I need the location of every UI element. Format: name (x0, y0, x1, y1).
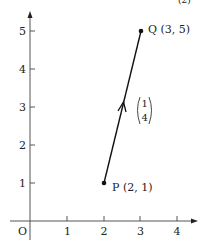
y-tick-label-5: 5 (19, 25, 26, 38)
y-tick-label-3: 3 (19, 101, 26, 114)
x-tick-label-4: 4 (174, 225, 181, 238)
x-tick-label-1: 1 (64, 225, 71, 238)
right-paren-icon (149, 97, 152, 124)
y-tick-label-1: 1 (19, 177, 26, 190)
y-ticks (30, 31, 35, 183)
x-tick-label-3: 3 (137, 225, 144, 238)
y-tick-label-4: 4 (19, 63, 26, 76)
origin-label: O (18, 225, 27, 238)
point-q (139, 29, 144, 34)
point-p-label: P (2, 1) (112, 181, 152, 194)
vector-bottom-component: 4 (142, 112, 148, 123)
vector-diagram: (2) O 1 2 3 4 1 2 3 4 5 P (0, 0, 207, 247)
x-axis-arrow-icon (191, 219, 198, 224)
corner-fragment-label: (2) (178, 0, 191, 5)
y-axis (28, 11, 33, 240)
point-p (102, 181, 107, 186)
y-tick-label-2: 2 (19, 139, 26, 152)
vector-pq (104, 31, 141, 183)
vector-top-component: 1 (142, 98, 148, 109)
x-tick-label-2: 2 (101, 225, 108, 238)
x-ticks (67, 216, 177, 221)
y-axis-arrow-icon (28, 11, 33, 18)
column-vector-label: 1 4 (138, 97, 152, 124)
left-paren-icon (138, 97, 141, 124)
point-q-label: Q (3, 5) (148, 23, 190, 36)
